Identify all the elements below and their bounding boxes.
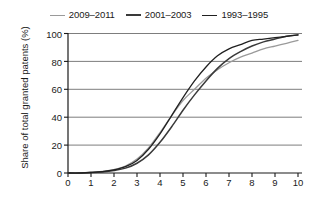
- series-line-2001-2003: [68, 35, 298, 173]
- axis-ticks: [64, 34, 298, 178]
- series-line-1993-1995: [68, 35, 298, 173]
- gridlines: [68, 34, 302, 174]
- data-series-group: [68, 35, 298, 173]
- series-line-2009-2011: [68, 40, 298, 173]
- plot-area: [0, 0, 318, 223]
- chart-container: 2009–2011 2001–2003 1993–1995 Share of t…: [0, 0, 318, 223]
